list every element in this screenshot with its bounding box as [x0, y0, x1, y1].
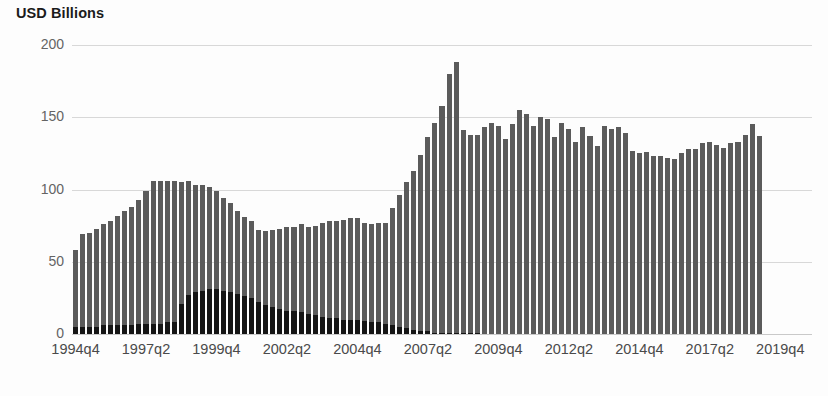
bar-segment-upper: [439, 106, 444, 333]
bar-segment-upper: [235, 211, 240, 293]
bar: [369, 224, 374, 334]
bar-segment-upper: [80, 234, 85, 326]
bar-segment-upper: [566, 129, 571, 334]
bar-segment-upper: [468, 135, 473, 333]
bar-segment-lower: [397, 327, 402, 334]
bar-segment-upper: [284, 227, 289, 311]
x-axis-tick-label: 2004q4: [333, 341, 381, 357]
bar-segment-upper: [143, 191, 148, 324]
bar-segment-lower: [369, 322, 374, 334]
bar: [496, 126, 501, 334]
bar-segment-lower: [186, 295, 191, 334]
bar: [672, 159, 677, 334]
x-axis: 1994q41997q21999q42002q22004q42007q22009…: [72, 341, 812, 371]
bar: [306, 227, 311, 334]
bar-segment-upper: [651, 156, 656, 334]
bar-segment-lower: [355, 320, 360, 334]
bar: [228, 203, 233, 334]
bar: [193, 185, 198, 334]
bar: [327, 221, 332, 334]
bar-segment-lower: [228, 292, 233, 334]
bar-segment-upper: [228, 203, 233, 293]
bar-segment-upper: [665, 158, 670, 334]
bar-segment-upper: [411, 171, 416, 330]
bar-segment-upper: [306, 227, 311, 314]
bar-segment-upper: [728, 143, 733, 334]
bar-segment-upper: [425, 137, 430, 331]
bar: [721, 148, 726, 334]
bar: [383, 223, 388, 334]
bar-segment-upper: [151, 181, 156, 324]
bar-segment-lower: [383, 324, 388, 334]
bar: [263, 231, 268, 334]
bar-segment-lower: [320, 317, 325, 334]
bar: [475, 135, 480, 334]
bar-segment-upper: [299, 224, 304, 312]
bar: [334, 221, 339, 334]
bar: [750, 124, 755, 334]
bar-segment-lower: [136, 324, 141, 334]
bar-segment-upper: [609, 129, 614, 334]
bar: [165, 181, 170, 334]
bar-segment-upper: [538, 117, 543, 334]
bar: [94, 229, 99, 334]
bar: [299, 224, 304, 334]
bar: [587, 136, 592, 334]
bar-segment-upper: [658, 156, 663, 334]
bar: [320, 223, 325, 334]
bar-segment-lower: [291, 311, 296, 334]
plot-area: [72, 45, 812, 334]
bar-segment-lower: [313, 315, 318, 334]
bar: [101, 224, 106, 334]
bar-segment-upper: [503, 139, 508, 334]
bar-segment-upper: [714, 145, 719, 334]
bar-segment-upper: [721, 148, 726, 334]
bar: [73, 250, 78, 334]
axis-baseline: [72, 334, 812, 335]
bar: [341, 220, 346, 334]
bar-segment-upper: [693, 149, 698, 334]
bar-segment-upper: [707, 142, 712, 334]
bar-segment-upper: [461, 130, 466, 332]
bar-segment-upper: [115, 216, 120, 326]
bar-segment-upper: [602, 126, 607, 334]
bar-segment-upper: [369, 224, 374, 322]
y-axis-tick-label: 150: [6, 108, 64, 124]
bar: [270, 230, 275, 334]
bar-segment-lower: [390, 325, 395, 334]
bar-segment-upper: [482, 127, 487, 334]
bar-segment-upper: [454, 62, 459, 332]
bar: [256, 230, 261, 334]
bar-segment-upper: [475, 135, 480, 333]
bar-segment-upper: [524, 114, 529, 334]
bar-segment-upper: [277, 229, 282, 310]
bar-segment-upper: [686, 149, 691, 334]
bar-segment-upper: [207, 187, 212, 290]
bar: [425, 137, 430, 334]
x-axis-tick-label: 2019q4: [756, 341, 804, 357]
bar: [602, 126, 607, 334]
bar: [559, 123, 564, 334]
bar-segment-lower: [172, 322, 177, 334]
bar: [630, 151, 635, 335]
bar-segment-lower: [179, 304, 184, 334]
bar-segment-upper: [559, 123, 564, 334]
bar: [743, 135, 748, 334]
bar-segment-lower: [143, 324, 148, 334]
bar-segment-upper: [573, 142, 578, 334]
bar-segment-upper: [291, 227, 296, 311]
bar-segment-upper: [221, 198, 226, 290]
bar: [595, 146, 600, 334]
bar-segment-upper: [87, 233, 92, 327]
bar-segment-upper: [327, 221, 332, 318]
bar: [665, 158, 670, 334]
bar: [644, 152, 649, 334]
x-axis-tick-label: 1999q4: [192, 341, 240, 357]
x-axis-tick-label: 2014q4: [615, 341, 663, 357]
y-axis: 050100150200: [0, 45, 64, 334]
chart-container: USD Billions 050100150200 1994q41997q219…: [0, 0, 828, 396]
x-axis-tick-label: 1994q4: [51, 341, 99, 357]
bar: [609, 129, 614, 334]
bar-segment-lower: [277, 309, 282, 334]
bar: [489, 123, 494, 334]
